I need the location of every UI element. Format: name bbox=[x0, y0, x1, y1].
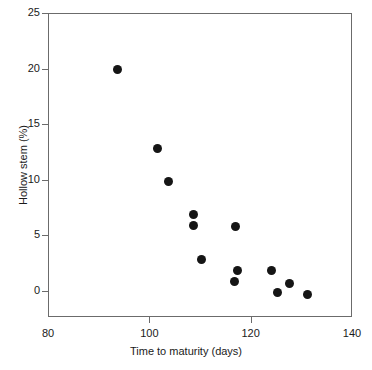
data-point bbox=[153, 144, 162, 153]
data-point bbox=[285, 279, 294, 288]
x-tick-label: 100 bbox=[124, 327, 174, 339]
scatter-chart-figure: 0510152025 80100120140 Time to maturity … bbox=[0, 0, 372, 370]
data-point bbox=[164, 177, 173, 186]
data-point bbox=[189, 221, 198, 230]
data-point bbox=[267, 266, 276, 275]
plot-frame bbox=[48, 13, 352, 317]
data-point bbox=[197, 255, 206, 264]
data-point bbox=[113, 65, 122, 74]
data-point bbox=[233, 266, 242, 275]
data-point bbox=[230, 277, 239, 286]
data-point bbox=[303, 290, 312, 299]
data-point bbox=[273, 288, 282, 297]
data-point bbox=[189, 210, 198, 219]
data-point bbox=[231, 222, 240, 231]
y-axis-label: Hollow stem (%) bbox=[15, 13, 31, 317]
plot-area bbox=[49, 14, 351, 316]
x-axis-label: Time to maturity (days) bbox=[0, 345, 372, 358]
x-tick-label: 120 bbox=[226, 327, 276, 339]
x-tick-mark bbox=[251, 317, 252, 323]
x-tick-mark bbox=[149, 317, 150, 323]
x-tick-label: 140 bbox=[327, 327, 372, 339]
x-tick-label: 80 bbox=[23, 327, 73, 339]
